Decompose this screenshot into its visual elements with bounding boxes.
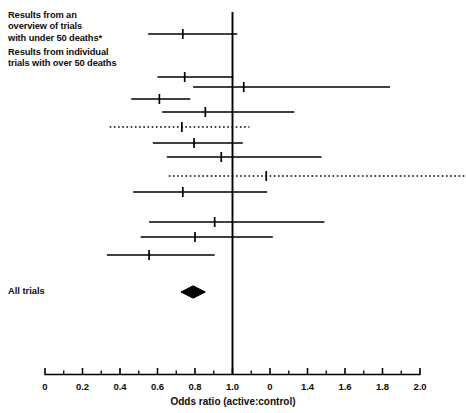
trial-row	[148, 29, 237, 39]
confidence-interval-rows	[107, 29, 466, 260]
x-axis-group	[45, 368, 421, 375]
x-axis-tick-label: 0.8	[180, 381, 210, 392]
trial-row	[141, 232, 273, 242]
x-axis-tick-label: 1.6	[330, 381, 360, 392]
x-axis-tick-label: 2.0	[405, 381, 435, 392]
x-axis-tick-label: 1.8	[368, 381, 398, 392]
x-axis-tick-label: 0.2	[68, 381, 98, 392]
trial-row	[133, 187, 267, 197]
trial-row	[167, 152, 322, 162]
trial-row	[107, 250, 215, 260]
x-axis-tick-label: 1.0	[218, 381, 248, 392]
trial-row	[158, 72, 234, 82]
trial-row	[153, 138, 243, 148]
x-axis-tick-label: 0	[255, 381, 285, 392]
label-all-trials: All trials	[8, 286, 45, 296]
trial-row	[131, 94, 190, 104]
header-overview-trials: Results from an overview of trials with …	[8, 10, 102, 44]
trial-row	[110, 122, 250, 132]
trial-row	[149, 217, 324, 227]
x-axis-tick-label: 0.4	[105, 381, 135, 392]
trial-row	[169, 171, 466, 181]
x-axis-title: Odds ratio (active:control)	[0, 396, 466, 407]
summary-diamond-group	[181, 286, 205, 298]
x-axis-tick-label: 1.4	[293, 381, 323, 392]
x-axis-tick-label: 0	[30, 381, 60, 392]
trial-row	[162, 107, 294, 117]
x-axis-tick-label: 0.6	[143, 381, 173, 392]
trial-row	[193, 82, 390, 92]
summary-diamond	[181, 286, 205, 298]
header-individual-trials: Results from individual trials with over…	[8, 47, 117, 70]
